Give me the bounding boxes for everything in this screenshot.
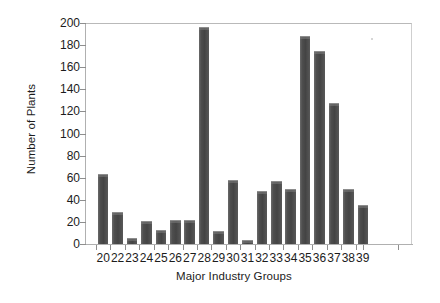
y-tick-label: 140 <box>36 82 80 96</box>
x-axis-line <box>86 244 413 245</box>
y-tick-label: 180 <box>36 38 80 52</box>
x-tick-mark <box>283 245 284 250</box>
bar-25 <box>156 230 167 244</box>
y-tick-label-wrap: 140 <box>30 89 80 90</box>
y-tick-label-wrap: 160 <box>30 67 80 68</box>
y-tick-mark <box>80 222 86 223</box>
x-tick-label-37: 37 <box>327 251 340 265</box>
x-tick-label-20: 20 <box>97 251 110 265</box>
y-tick-label-wrap: 120 <box>30 111 80 112</box>
x-tick-label-35: 35 <box>298 251 311 265</box>
bar-33 <box>271 181 282 244</box>
x-tick-mark <box>154 245 155 250</box>
x-tick-mark <box>298 245 299 250</box>
y-tick-label: 20 <box>36 215 80 229</box>
x-tick-label-27: 27 <box>183 251 196 265</box>
x-tick-label-38: 38 <box>342 251 355 265</box>
bar-38 <box>343 189 354 244</box>
x-tick-label-32: 32 <box>255 251 268 265</box>
y-tick-mark <box>80 244 86 245</box>
x-tick-mark <box>341 245 342 250</box>
x-tick-mark <box>255 245 256 250</box>
bar-28 <box>199 27 210 244</box>
bar-20 <box>98 174 109 244</box>
x-tick-mark <box>356 245 357 250</box>
y-tick-label: 80 <box>36 149 80 163</box>
y-tick-label: 160 <box>36 60 80 74</box>
scan-speckle <box>371 38 373 40</box>
x-tick-mark <box>240 245 241 250</box>
bar-35 <box>300 36 311 244</box>
y-tick-label-wrap: 100 <box>30 134 80 135</box>
y-tick-label-wrap: 180 <box>30 45 80 46</box>
x-tick-mark <box>139 245 140 250</box>
y-tick-label: 200 <box>36 16 80 30</box>
x-tick-mark <box>96 245 97 250</box>
x-tick-label-24: 24 <box>140 251 153 265</box>
x-tick-mark <box>211 245 212 250</box>
x-tick-mark <box>312 245 313 250</box>
bar-22 <box>112 212 123 244</box>
x-tick-label-25: 25 <box>154 251 167 265</box>
x-tick-mark <box>398 245 399 250</box>
bar-chart-figure: Number of Plants 02040608010012014016018… <box>0 0 440 303</box>
bar-31 <box>242 240 253 244</box>
x-tick-label-26: 26 <box>169 251 182 265</box>
y-tick-mark <box>80 156 86 157</box>
y-tick-mark <box>80 45 86 46</box>
x-tick-mark <box>327 245 328 250</box>
y-tick-mark <box>80 111 86 112</box>
y-tick-mark <box>80 89 86 90</box>
x-tick-label-29: 29 <box>212 251 225 265</box>
y-tick-label: 0 <box>36 237 80 251</box>
x-tick-mark <box>197 245 198 250</box>
x-tick-label-31: 31 <box>241 251 254 265</box>
bar-29 <box>213 231 224 244</box>
bar-27 <box>184 220 195 244</box>
y-tick-mark <box>80 67 86 68</box>
x-tick-mark <box>363 245 364 250</box>
y-tick-label: 60 <box>36 171 80 185</box>
x-tick-label-33: 33 <box>270 251 283 265</box>
y-tick-label-wrap: 20 <box>30 222 80 223</box>
x-axis-title: Major Industry Groups <box>86 270 382 282</box>
bar-32 <box>257 191 268 244</box>
x-tick-label-36: 36 <box>313 251 326 265</box>
x-tick-label-39: 39 <box>356 251 369 265</box>
y-tick-mark <box>80 134 86 135</box>
x-tick-label-23: 23 <box>125 251 138 265</box>
bar-26 <box>170 220 181 244</box>
y-tick-label-wrap: 60 <box>30 178 80 179</box>
x-tick-mark <box>110 245 111 250</box>
y-tick-label: 120 <box>36 104 80 118</box>
bar-37 <box>329 103 340 244</box>
y-tick-label-wrap: 0 <box>30 244 80 245</box>
x-tick-label-22: 22 <box>111 251 124 265</box>
y-tick-label-wrap: 40 <box>30 200 80 201</box>
x-tick-mark <box>168 245 169 250</box>
bar-36 <box>314 51 325 244</box>
bar-30 <box>228 180 239 244</box>
x-tick-mark <box>125 245 126 250</box>
y-tick-label-wrap: 200 <box>30 23 80 24</box>
y-tick-mark <box>80 178 86 179</box>
y-tick-label: 40 <box>36 193 80 207</box>
y-tick-label: 100 <box>36 127 80 141</box>
bar-39 <box>358 205 369 244</box>
x-tick-label-34: 34 <box>284 251 297 265</box>
x-tick-label-30: 30 <box>226 251 239 265</box>
bar-34 <box>285 189 296 244</box>
x-tick-label-28: 28 <box>197 251 210 265</box>
x-tick-mark <box>269 245 270 250</box>
x-tick-mark <box>226 245 227 250</box>
bar-23 <box>127 238 138 244</box>
y-tick-mark <box>80 23 86 24</box>
y-tick-label-wrap: 80 <box>30 156 80 157</box>
x-tick-mark <box>183 245 184 250</box>
y-tick-mark <box>80 200 86 201</box>
bar-24 <box>141 221 152 244</box>
